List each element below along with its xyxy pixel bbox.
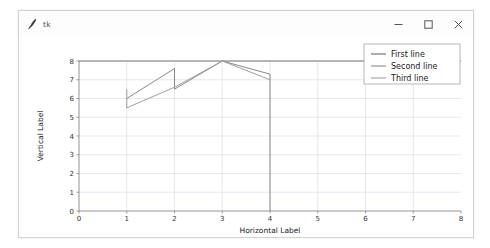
y-tick-label: 2 bbox=[70, 170, 74, 178]
window-controls bbox=[383, 11, 473, 37]
maximize-icon bbox=[423, 19, 434, 30]
y-tick-label: 6 bbox=[70, 95, 75, 103]
x-tick-label: 0 bbox=[77, 215, 81, 223]
y-tick-label: 1 bbox=[70, 189, 74, 197]
screenshot-root: tk bbox=[0, 0, 490, 248]
line-chart: 012345678 012345678 Horizontal Label Ver… bbox=[19, 37, 473, 237]
legend-label-3: Third line bbox=[390, 74, 428, 83]
x-tick-label: 1 bbox=[125, 215, 129, 223]
minimize-button[interactable] bbox=[383, 11, 413, 37]
y-tick-label: 5 bbox=[70, 114, 74, 122]
x-tick-label: 5 bbox=[316, 215, 320, 223]
y-tick-label: 4 bbox=[70, 133, 75, 141]
legend-label-1: First line bbox=[391, 50, 425, 59]
x-tick-label: 8 bbox=[459, 215, 463, 223]
x-tick-label: 2 bbox=[172, 215, 176, 223]
chart-legend[interactable]: First lineSecond lineThird line bbox=[364, 44, 460, 84]
x-tick-label: 4 bbox=[268, 215, 273, 223]
x-tick-label: 3 bbox=[220, 215, 224, 223]
y-tick-label: 0 bbox=[70, 208, 74, 216]
matplotlib-feather-icon bbox=[27, 18, 38, 30]
application-window: tk bbox=[18, 10, 474, 238]
y-tick-label: 7 bbox=[70, 76, 74, 84]
x-tick-label: 7 bbox=[411, 215, 415, 223]
matplotlib-figure-canvas[interactable]: 012345678 012345678 Horizontal Label Ver… bbox=[19, 37, 473, 237]
x-axis-label: Horizontal Label bbox=[240, 226, 301, 235]
maximize-button[interactable] bbox=[413, 11, 443, 37]
y-axis-label: Vertical Label bbox=[36, 111, 45, 162]
y-tick-label: 8 bbox=[70, 58, 74, 66]
window-title: tk bbox=[43, 20, 51, 29]
y-tick-label: 3 bbox=[70, 151, 74, 159]
close-button[interactable] bbox=[443, 11, 473, 37]
close-icon bbox=[453, 19, 464, 30]
window-titlebar[interactable]: tk bbox=[19, 11, 473, 37]
x-tick-label: 6 bbox=[363, 215, 368, 223]
x-axis-tick-labels: 012345678 bbox=[77, 215, 463, 223]
legend-label-2: Second line bbox=[391, 62, 438, 71]
y-axis-tick-labels: 012345678 bbox=[70, 58, 75, 216]
minimize-icon bbox=[393, 19, 404, 30]
